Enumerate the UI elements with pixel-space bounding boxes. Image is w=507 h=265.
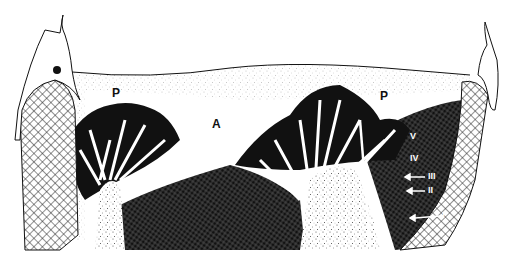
left-pillar (20, 80, 78, 250)
eye-dot (53, 66, 61, 74)
label-i: I (442, 211, 445, 220)
label-ii: II (428, 186, 433, 195)
label-a: A (212, 118, 221, 130)
illustration (0, 0, 507, 265)
label-iv: IV (410, 154, 419, 163)
label-p-right: P (380, 90, 388, 102)
label-iii: III (428, 172, 436, 181)
label-v: V (410, 132, 416, 141)
label-p-left: P (112, 87, 120, 99)
